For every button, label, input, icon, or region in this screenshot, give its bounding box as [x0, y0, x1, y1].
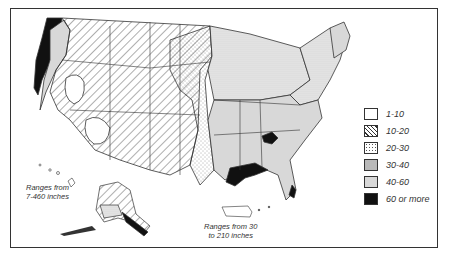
- legend-label: 10-20: [386, 126, 409, 136]
- legend-label: 20-30: [386, 143, 409, 153]
- hawaii-note: Ranges from 7-460 inches: [26, 183, 69, 201]
- puerto-rico-note-line1: Ranges from 30: [204, 222, 257, 231]
- alaska-inset: [60, 182, 150, 236]
- legend-item-60-plus: 60 or more: [364, 190, 430, 207]
- puerto-rico-note-line2: to 210 inches: [204, 231, 257, 240]
- legend-item-30-40: 30-40: [364, 156, 430, 173]
- legend-swatch-black: [364, 193, 378, 205]
- legend-label: 60 or more: [386, 194, 430, 204]
- legend-item-10-20: 10-20: [364, 122, 430, 139]
- legend-label: 40-60: [386, 177, 409, 187]
- hawaii-note-line1: Ranges from: [26, 183, 69, 192]
- legend-swatch-gray: [364, 176, 378, 188]
- legend-swatch-hatch: [364, 125, 378, 137]
- legend-item-20-30: 20-30: [364, 139, 430, 156]
- legend-swatch-dense-dots: [364, 159, 378, 171]
- puerto-rico-note: Ranges from 30 to 210 inches: [204, 222, 257, 240]
- legend: 1-10 10-20 20-30 30-40 40-60 60 or more: [364, 105, 430, 207]
- legend-swatch-blank: [364, 108, 378, 120]
- legend-item-1-10: 1-10: [364, 105, 430, 122]
- legend-swatch-sparse-dots: [364, 142, 378, 154]
- hawaii-note-line2: 7-460 inches: [26, 192, 69, 201]
- legend-label: 1-10: [386, 109, 404, 119]
- legend-item-40-60: 40-60: [364, 173, 430, 190]
- puerto-rico-inset: [222, 206, 270, 217]
- legend-label: 30-40: [386, 160, 409, 170]
